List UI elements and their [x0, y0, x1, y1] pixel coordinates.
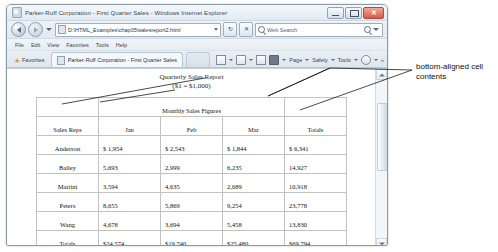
content-viewport: Quarterly Sales Report ($1 = $1,000) Mon… — [7, 68, 387, 246]
cell-mar: 2,689 — [223, 173, 285, 192]
scroll-down-button[interactable] — [376, 238, 387, 246]
url-input[interactable]: D:\HTML_Examples\chap05\salesreport2.htm… — [55, 23, 221, 37]
tools-chevron-down-icon[interactable] — [354, 59, 358, 61]
command-safety-label[interactable]: Safety — [312, 57, 328, 63]
column-header-feb: Feb — [161, 116, 223, 135]
menu-item-view[interactable]: View — [47, 42, 59, 48]
table-corner-cell — [37, 97, 99, 116]
stop-button[interactable]: ✕ — [239, 22, 253, 37]
page-icon — [12, 7, 22, 18]
cell-jan: 8,655 — [99, 192, 161, 211]
help-chevron-down-icon[interactable] — [374, 59, 378, 61]
tab-favicon-icon — [57, 56, 65, 65]
minimize-button[interactable] — [327, 7, 344, 19]
mail-icon[interactable] — [256, 55, 266, 65]
cell-mar: 9,254 — [223, 192, 285, 211]
close-button[interactable]: ✕ — [363, 7, 384, 19]
new-tab-button[interactable] — [186, 52, 210, 67]
search-input[interactable]: Web Search — [255, 23, 383, 37]
screenshot-root: Parker-Ruff Corporation - First Quarter … — [0, 0, 498, 252]
column-header-mar: Mar — [223, 116, 285, 135]
menu-item-help[interactable]: Help — [116, 42, 127, 48]
search-go-icon[interactable] — [364, 26, 371, 33]
cell-jan: $ 1,954 — [99, 135, 161, 154]
cell-feb: $ 2,543 — [161, 135, 223, 154]
forward-arrow-icon — [34, 27, 38, 33]
print-icon[interactable] — [269, 55, 279, 65]
chevron-up-icon — [379, 73, 385, 76]
command-overflow-button[interactable]: » — [381, 57, 384, 63]
menu-item-favorites[interactable]: Favorites — [66, 42, 89, 48]
browser-tab-active[interactable]: Parker-Ruff Corporation - First Quarter … — [51, 52, 183, 67]
back-button[interactable] — [11, 22, 26, 37]
cell-jan: 5,693 — [99, 154, 161, 173]
command-bar: Page Safety Tools » — [216, 52, 387, 67]
table-group-header-row: Monthly Sales Figures — [37, 97, 347, 116]
cell-feb: 5,869 — [161, 192, 223, 211]
menu-item-tools[interactable]: Tools — [96, 42, 109, 48]
table-group-header: Monthly Sales Figures — [99, 97, 285, 116]
cell-total: 10,918 — [285, 173, 347, 192]
page-title: Quarterly Sales Report — [7, 73, 376, 82]
maximize-button[interactable] — [345, 7, 362, 19]
cell-jan: 3,594 — [99, 173, 161, 192]
menu-item-edit[interactable]: Edit — [31, 42, 40, 48]
site-icon — [58, 25, 66, 34]
star-icon: ★ — [14, 57, 20, 64]
table-row: Anderson $ 1,954 $ 2,543 $ 1,844 $ 6,341 — [37, 135, 347, 154]
column-header-jan: Jan — [99, 116, 161, 135]
tab-label: Parker-Ruff Corporation - First Quarter … — [68, 57, 177, 63]
menu-item-file[interactable]: File — [15, 42, 24, 48]
cell-rep-name: Totals — [37, 230, 99, 246]
scrollbar-thumb[interactable] — [377, 103, 387, 171]
cell-rep-name: Wang — [37, 211, 99, 230]
cell-feb: 4,635 — [161, 173, 223, 192]
table-body: Anderson $ 1,954 $ 2,543 $ 1,844 $ 6,341… — [37, 135, 347, 246]
refresh-button[interactable]: ↻ — [223, 22, 237, 37]
print-chevron-down-icon[interactable] — [282, 59, 286, 61]
cell-mar: $ 1,844 — [223, 135, 285, 154]
page-chevron-down-icon[interactable] — [305, 59, 309, 61]
cell-rep-name: Bailey — [37, 154, 99, 173]
web-page: Quarterly Sales Report ($1 = $1,000) Mon… — [7, 69, 376, 246]
cell-mar: 5,458 — [223, 211, 285, 230]
feeds-icon[interactable] — [236, 55, 246, 65]
search-icon — [258, 26, 265, 33]
table-row: Peters 8,655 5,869 9,254 23,778 — [37, 192, 347, 211]
history-chevron-down-icon[interactable] — [46, 28, 52, 31]
command-tools-label[interactable]: Tools — [338, 57, 351, 63]
favorites-button[interactable]: ★ Favorites — [11, 53, 48, 67]
safety-chevron-down-icon[interactable] — [331, 59, 335, 61]
cell-feb: $19,740 — [161, 230, 223, 246]
chevron-down-icon — [379, 242, 385, 245]
search-placeholder: Web Search — [267, 27, 297, 33]
vertical-scrollbar[interactable] — [375, 69, 387, 246]
scroll-up-button[interactable] — [376, 69, 387, 80]
cell-mar: 6,235 — [223, 154, 285, 173]
table-row-totals: Totals $24,574 $19,740 $25,480 $69,794 — [37, 230, 347, 246]
browser-window: Parker-Ruff Corporation - First Quarter … — [6, 4, 388, 246]
forward-button[interactable] — [28, 22, 43, 37]
cell-rep-name: Anderson — [37, 135, 99, 154]
column-header-totals: Totals — [285, 116, 347, 135]
close-icon: ✕ — [364, 8, 383, 18]
help-icon[interactable] — [361, 55, 371, 65]
home-icon[interactable] — [216, 55, 226, 65]
cell-total: $69,794 — [285, 230, 347, 246]
window-controls: ✕ — [327, 7, 384, 19]
command-page-label[interactable]: Page — [289, 57, 302, 63]
url-chevron-down-icon[interactable] — [214, 28, 218, 31]
cell-total: $ 6,341 — [285, 135, 347, 154]
cell-rep-name: Martini — [37, 173, 99, 192]
home-chevron-down-icon[interactable] — [229, 59, 233, 61]
title-bar: Parker-Ruff Corporation - First Quarter … — [7, 5, 387, 21]
table-corner-cell-right — [285, 97, 347, 116]
favorites-and-tabs-bar: ★ Favorites Parker-Ruff Corporation - Fi… — [7, 51, 387, 68]
feeds-chevron-down-icon[interactable] — [249, 59, 253, 61]
cell-feb: 2,999 — [161, 154, 223, 173]
cell-jan: $24,574 — [99, 230, 161, 246]
cell-feb: 3,694 — [161, 211, 223, 230]
cell-jan: 4,678 — [99, 211, 161, 230]
search-provider-chevron-down-icon[interactable] — [373, 28, 379, 31]
table-row: Bailey 5,693 2,999 6,235 14,927 — [37, 154, 347, 173]
